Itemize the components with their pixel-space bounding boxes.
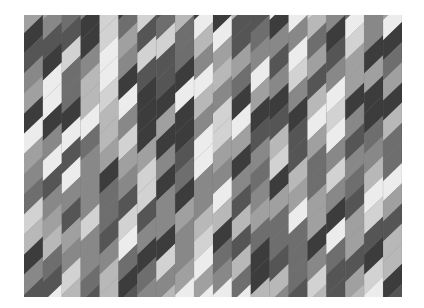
abstract-painting [24, 15, 402, 297]
